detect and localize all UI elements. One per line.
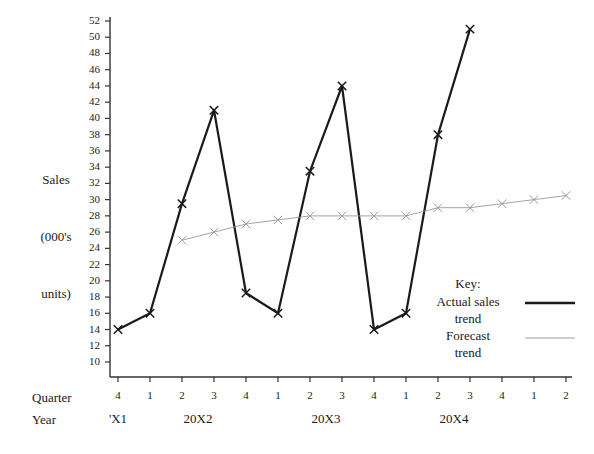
year-group-label: 'X1 bbox=[88, 411, 148, 427]
year-row-label: Year bbox=[32, 412, 56, 428]
year-group-label: 20X2 bbox=[168, 411, 228, 427]
y-axis-ticks bbox=[105, 21, 110, 362]
data-point-marker bbox=[178, 236, 186, 244]
chart-legend: Key: Actual sales trend Forecast trend bbox=[408, 275, 528, 361]
quarter-tick-label: 1 bbox=[396, 389, 416, 401]
y-tick-label: 26 bbox=[76, 225, 100, 237]
quarter-tick-label: 2 bbox=[428, 389, 448, 401]
legend-forecast-label-line1: Forecast bbox=[408, 327, 528, 344]
x-axis-ticks bbox=[118, 377, 566, 382]
legend-actual-label-line2: trend bbox=[408, 310, 528, 327]
y-tick-label: 38 bbox=[76, 128, 100, 140]
y-tick-label: 34 bbox=[76, 160, 100, 172]
quarter-tick-label: 4 bbox=[492, 389, 512, 401]
y-tick-label: 36 bbox=[76, 144, 100, 156]
quarter-tick-label: 2 bbox=[556, 389, 576, 401]
quarter-tick-label: 1 bbox=[140, 389, 160, 401]
y-tick-label: 16 bbox=[76, 306, 100, 318]
legend-swatches bbox=[525, 303, 575, 338]
y-tick-label: 52 bbox=[76, 14, 100, 26]
chart-container: Sales (000's units) Quarter Year Key: Ac… bbox=[0, 0, 594, 454]
quarter-tick-label: 1 bbox=[268, 389, 288, 401]
y-tick-label: 48 bbox=[76, 46, 100, 58]
legend-forecast-label-line2: trend bbox=[408, 344, 528, 361]
y-tick-label: 46 bbox=[76, 63, 100, 75]
quarter-tick-label: 1 bbox=[524, 389, 544, 401]
y-tick-label: 50 bbox=[76, 30, 100, 42]
legend-title: Key: bbox=[408, 275, 528, 292]
y-tick-label: 24 bbox=[76, 241, 100, 253]
data-point-marker bbox=[114, 325, 122, 333]
quarter-tick-label: 3 bbox=[204, 389, 224, 401]
quarter-tick-label: 3 bbox=[460, 389, 480, 401]
y-tick-label: 22 bbox=[76, 258, 100, 270]
y-tick-label: 12 bbox=[76, 339, 100, 351]
quarter-tick-label: 4 bbox=[108, 389, 128, 401]
series-forecast-trend bbox=[182, 196, 566, 241]
quarter-tick-label: 2 bbox=[300, 389, 320, 401]
legend-actual-label-line1: Actual sales bbox=[408, 293, 528, 310]
y-tick-label: 40 bbox=[76, 111, 100, 123]
quarter-tick-label: 4 bbox=[364, 389, 384, 401]
y-tick-label: 32 bbox=[76, 176, 100, 188]
y-tick-label: 28 bbox=[76, 209, 100, 221]
y-tick-label: 14 bbox=[76, 323, 100, 335]
year-group-label: 20X3 bbox=[296, 411, 356, 427]
quarter-row-label: Quarter bbox=[32, 390, 72, 406]
y-tick-label: 18 bbox=[76, 290, 100, 302]
data-point-marker bbox=[210, 228, 218, 236]
quarter-tick-label: 3 bbox=[332, 389, 352, 401]
y-tick-label: 44 bbox=[76, 79, 100, 91]
quarter-tick-label: 4 bbox=[236, 389, 256, 401]
y-tick-label: 20 bbox=[76, 274, 100, 286]
y-tick-label: 10 bbox=[76, 355, 100, 367]
year-group-label: 20X4 bbox=[424, 411, 484, 427]
quarter-tick-label: 2 bbox=[172, 389, 192, 401]
y-tick-label: 30 bbox=[76, 193, 100, 205]
y-tick-label: 42 bbox=[76, 95, 100, 107]
